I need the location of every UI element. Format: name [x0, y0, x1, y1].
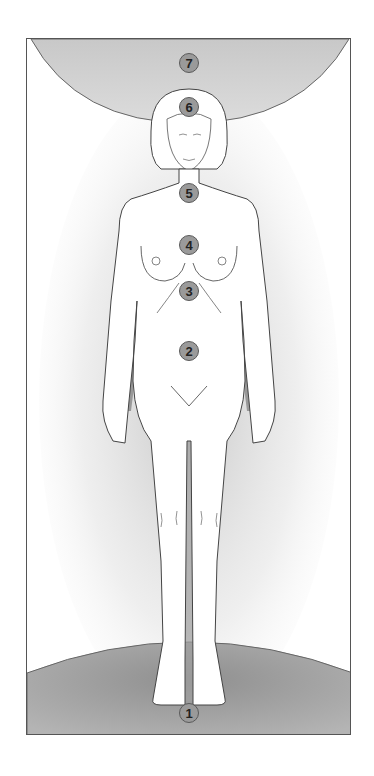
marker-label: 5	[185, 186, 192, 201]
chakra-marker-5: 5	[179, 183, 199, 203]
figure-illustration	[27, 39, 351, 735]
marker-label: 4	[185, 238, 192, 253]
chakra-marker-4: 4	[179, 235, 199, 255]
chakra-marker-2: 2	[179, 341, 199, 361]
chakra-marker-1: 1	[179, 703, 199, 723]
marker-label: 1	[185, 706, 192, 721]
chakra-marker-6: 6	[179, 97, 199, 117]
chakra-marker-7: 7	[179, 53, 199, 73]
marker-label: 3	[185, 284, 192, 299]
marker-label: 6	[185, 100, 192, 115]
chakra-marker-3: 3	[179, 281, 199, 301]
marker-label: 2	[185, 344, 192, 359]
marker-label: 7	[185, 56, 192, 71]
illustration-frame: 7 6 5 4 3 2 1	[26, 38, 351, 735]
